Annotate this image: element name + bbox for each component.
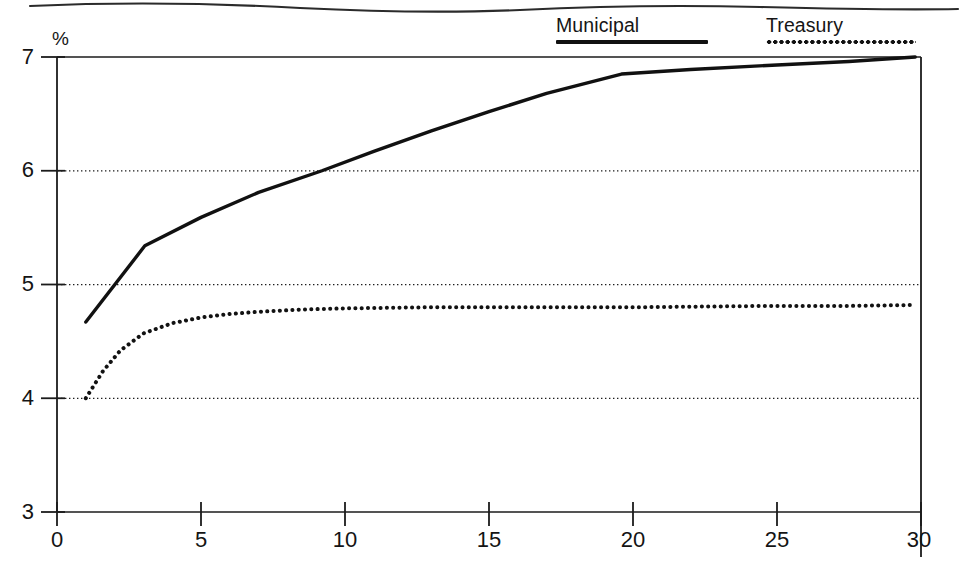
y-axis-unit-label: % — [52, 28, 69, 50]
x-tick-label-15: 15 — [467, 527, 511, 553]
gridlines-group — [57, 171, 921, 399]
series-line-municipal — [86, 57, 915, 322]
y-tick-label-4: 4 — [8, 385, 34, 411]
y-tick-label-5: 5 — [8, 271, 34, 297]
y-tick-label-7: 7 — [8, 44, 34, 70]
x-tick-label-20: 20 — [611, 527, 655, 553]
plot-area: % 7 6 5 4 3 0 5 10 15 20 25 30 — [0, 0, 960, 568]
y-tick-label-3: 3 — [8, 499, 34, 525]
x-tick-label-30: 30 — [897, 527, 941, 553]
x-tick-label-0: 0 — [35, 527, 79, 553]
y-tick-label-6: 6 — [8, 157, 34, 183]
chart-figure: Municipal Treasury % 7 6 5 4 3 0 5 10 15… — [0, 0, 960, 568]
x-tick-label-25: 25 — [755, 527, 799, 553]
series-line-treasury — [86, 305, 915, 398]
x-tick-label-5: 5 — [179, 527, 223, 553]
chart-canvas — [0, 0, 960, 568]
x-tick-label-10: 10 — [323, 527, 367, 553]
series-group — [86, 57, 915, 398]
